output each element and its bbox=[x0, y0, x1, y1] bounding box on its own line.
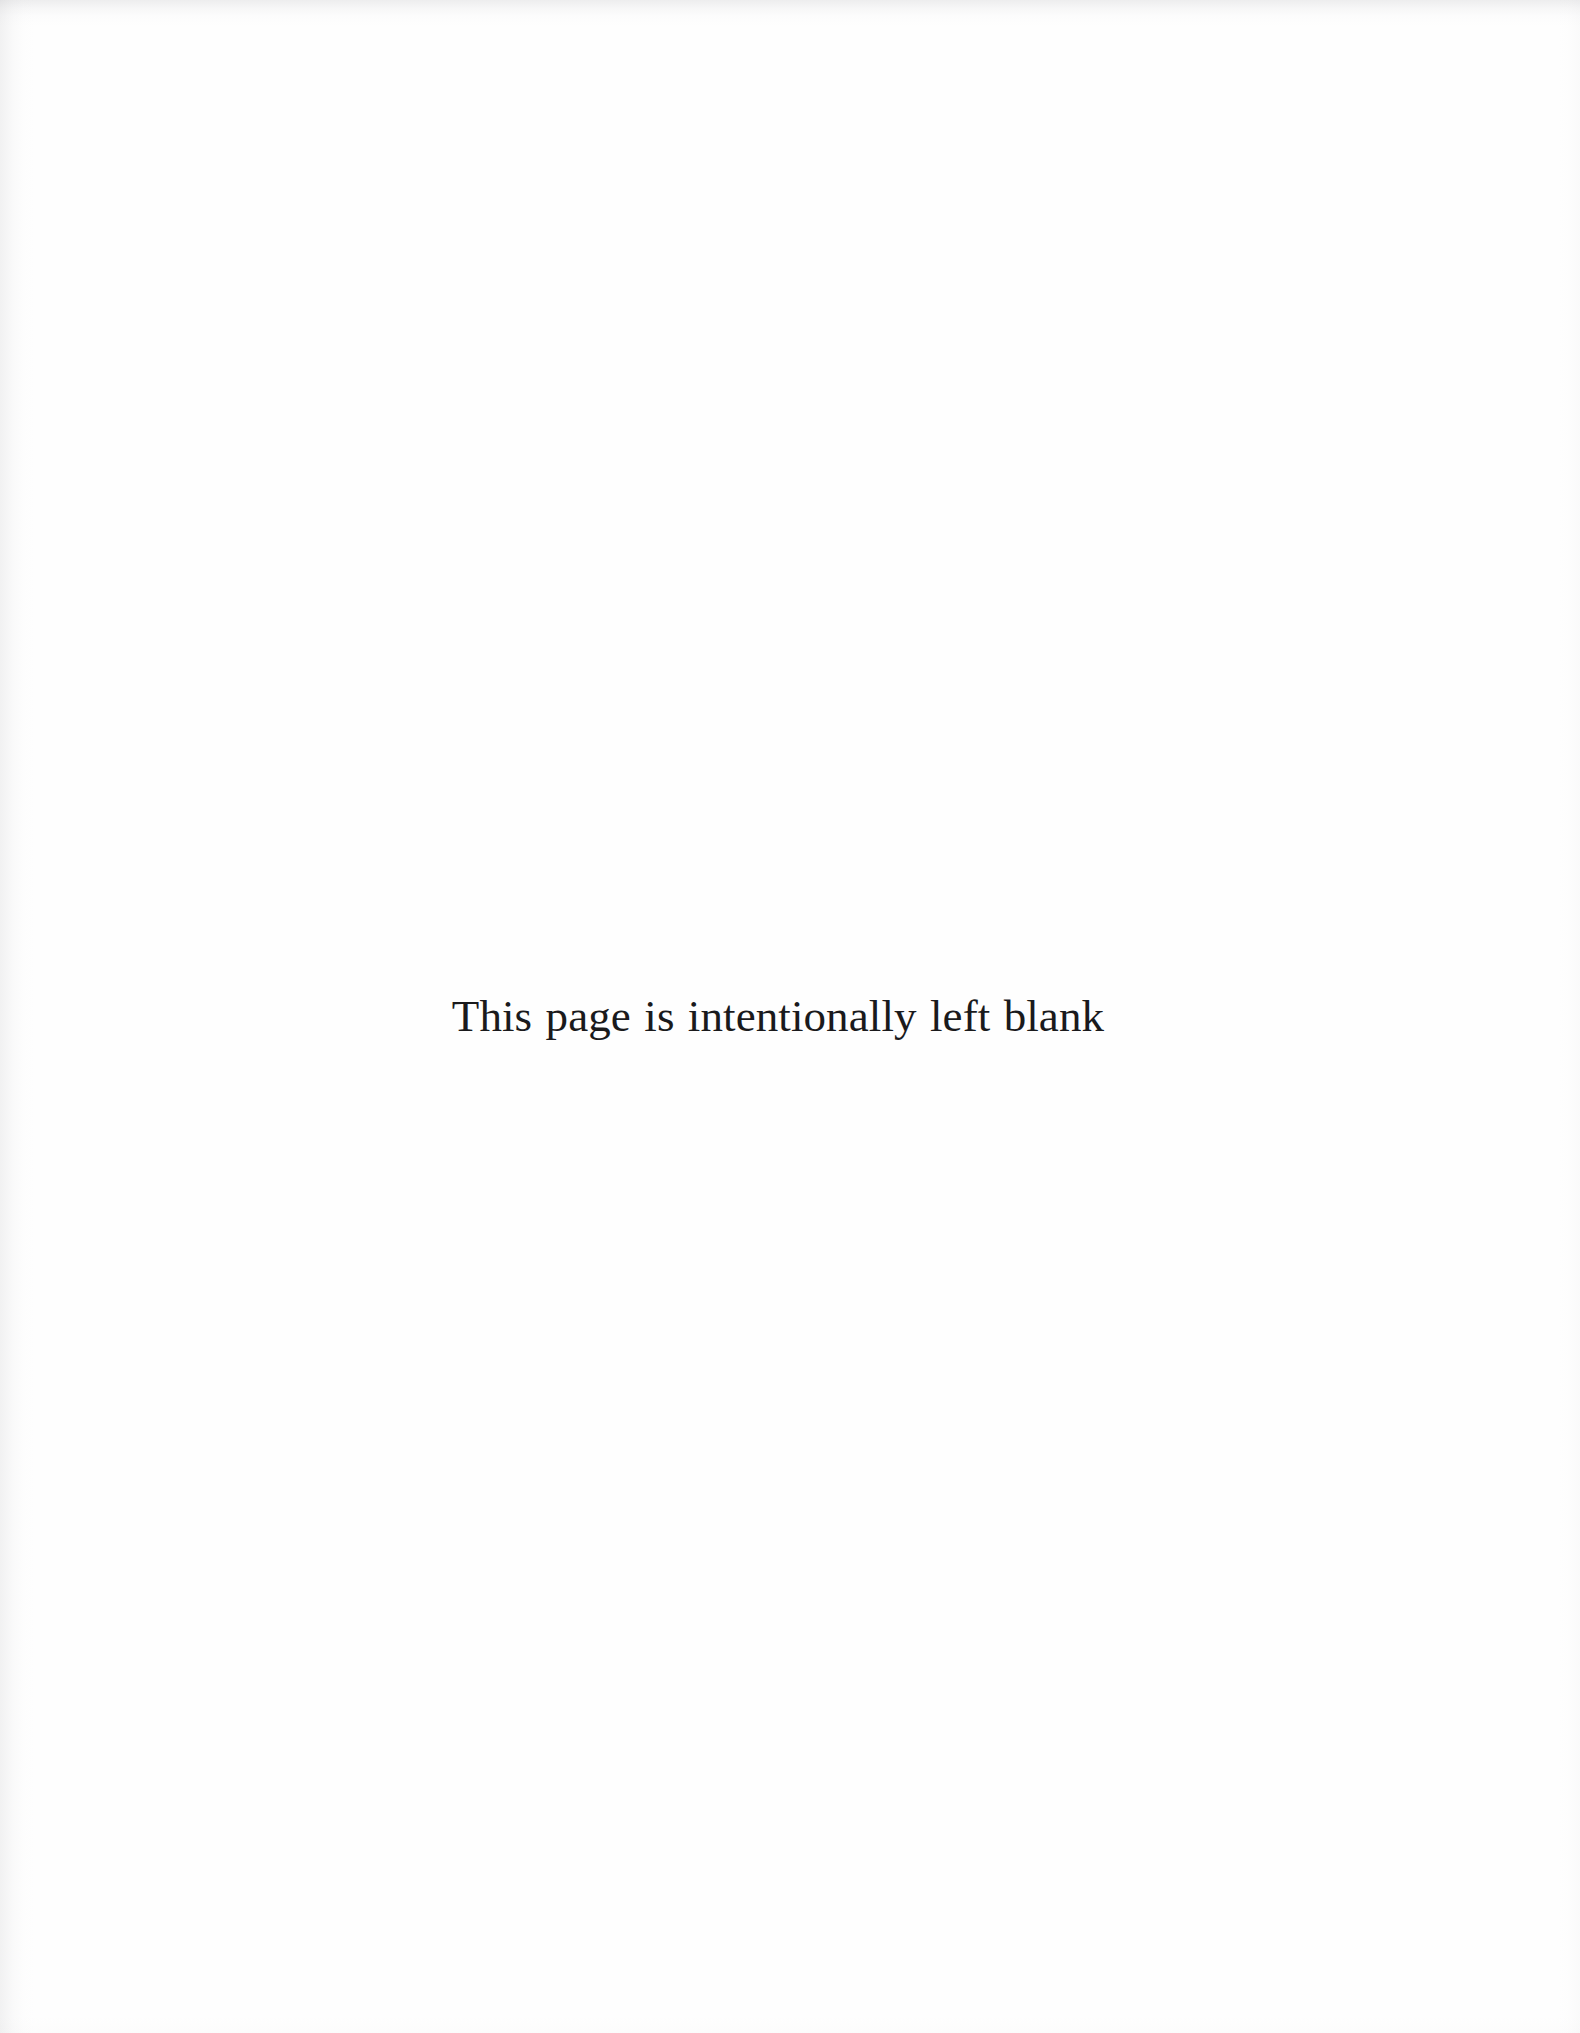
blank-page-notice: This page is intentionally left blank bbox=[0, 988, 1556, 1044]
scanned-page: This page is intentionally left blank bbox=[0, 0, 1580, 2033]
scan-edge-shadow-right bbox=[1558, 0, 1580, 2033]
scan-edge-shadow-bottom bbox=[0, 2017, 1580, 2033]
scan-edge-shadow-top bbox=[0, 0, 1580, 26]
